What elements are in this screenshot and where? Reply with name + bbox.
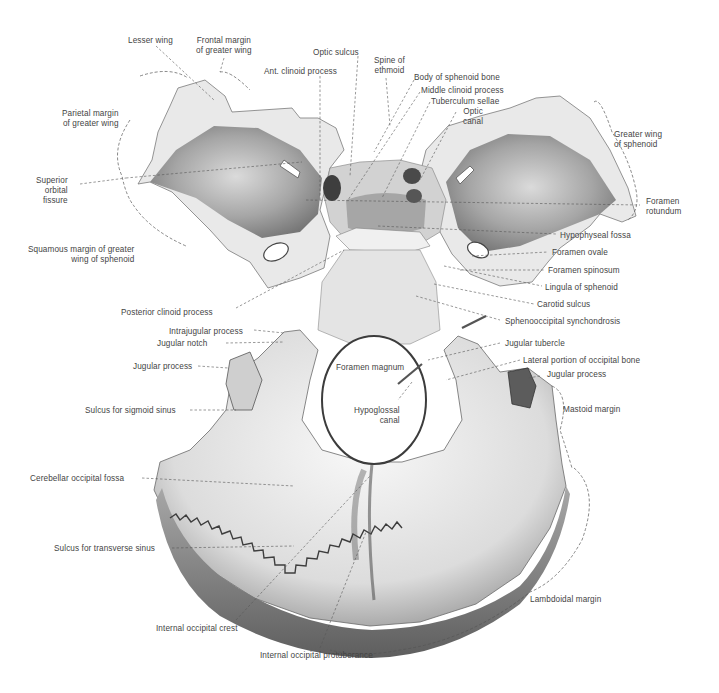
label-lateral-portion-occipital-bone: Lateral portion of occipital bone [523,356,640,366]
label-lambdoidal-margin: Lambdoidal margin [530,595,601,605]
label-cerebellar-occipital-fossa: Cerebellar occipital fossa [30,474,124,484]
label-greater-wing-of-sphenoid: Greater wingof sphenoid [614,130,662,150]
anatomy-figure: Lesser wing Frontal marginof greater win… [0,0,719,693]
label-frontal-margin-greater-wing: Frontal marginof greater wing [196,36,252,56]
label-intrajugular-process: Intrajugular process [169,327,243,337]
label-sphenooccipital-synchondrosis: Sphenooccipital synchondrosis [505,317,620,327]
label-sulcus-transverse-sinus: Sulcus for transverse sinus [54,544,155,554]
label-lesser-wing: Lesser wing [128,36,173,46]
label-optic-canal: Opticcanal [463,107,483,127]
label-squamous-margin-greater-wing: Squamous margin of greaterwing of spheno… [28,245,134,265]
label-foramen-spinosum: Foramen spinosum [548,266,620,276]
label-jugular-process-right: Jugular process [547,370,606,380]
label-posterior-clinoid-process: Posterior clinoid process [121,308,213,318]
label-ant-clinoid-process: Ant. clinoid process [264,67,337,77]
label-jugular-notch: Jugular notch [157,339,207,349]
label-internal-occipital-protuberance: Internal occipital protuberance [260,651,373,661]
label-optic-sulcus: Optic sulcus [313,48,359,58]
label-jugular-process-left: Jugular process [133,362,192,372]
label-jugular-tubercle: Jugular tubercle [505,339,565,349]
label-tuberculum-sellae: Tuberculum sellae [431,97,499,107]
label-superior-orbital-fissure: Superiororbitalfissure [36,176,68,206]
label-parietal-margin-greater-wing: Parietal marginof greater wing [62,109,119,129]
label-mastoid-margin: Mastoid margin [563,405,620,415]
label-sulcus-sigmoid-sinus: Sulcus for sigmoid sinus [85,406,176,416]
occipital-bone [154,250,570,658]
label-internal-occipital-crest: Internal occipital crest [156,624,238,634]
label-foramen-rotundum: Foramenrotundum [646,197,681,217]
label-middle-clinoid-process: Middle clinoid process [421,86,504,96]
label-carotid-sulcus: Carotid sulcus [537,300,590,310]
label-body-of-sphenoid-bone: Body of sphenoid bone [414,73,500,83]
label-hypophyseal-fossa: Hypophyseal fossa [560,231,631,241]
label-foramen-ovale: Foramen ovale [552,248,608,258]
label-lingula-of-sphenoid: Lingula of sphenoid [545,283,618,293]
label-foramen-magnum: Foramen magnum [336,363,404,373]
bone-illustration [0,0,719,693]
label-spine-of-ethmoid: Spine ofethmoid [374,56,405,76]
label-hypoglossal-canal: Hypoglossalcanal [354,406,400,426]
